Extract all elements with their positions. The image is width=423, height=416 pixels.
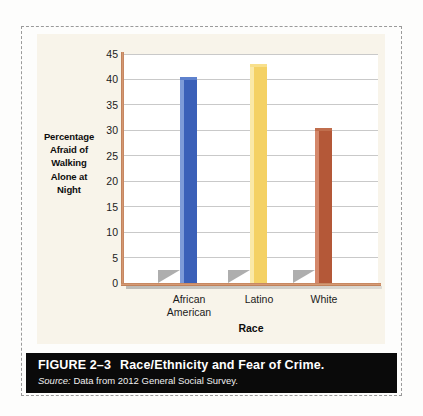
bar-highlight-white xyxy=(315,128,319,283)
figure-page: 45 40 35 30 25 20 15 10 5 0 Percentage A… xyxy=(0,0,423,416)
bar-shadow-white xyxy=(293,270,315,283)
category-label-line-1: White xyxy=(284,293,364,306)
y-tick-35: 35 xyxy=(94,100,118,111)
figure-number: FIGURE 2–3 xyxy=(38,358,111,372)
bar-shadow-african-american xyxy=(158,270,180,283)
bar-highlight-latino xyxy=(250,64,254,283)
y-tick-40: 40 xyxy=(94,74,118,85)
figure-source-text: Data from 2012 General Social Survey. xyxy=(73,375,238,386)
bar-highlight-african-american xyxy=(180,77,184,283)
y-axis-title-line-3: Walking xyxy=(38,156,100,169)
y-tick-15: 15 xyxy=(94,202,118,213)
category-label-line-2: American xyxy=(149,306,229,319)
y-tick-0: 0 xyxy=(94,278,118,289)
y-axis-title: Percentage Afraid of Walking Alone at Ni… xyxy=(38,130,100,196)
y-tick-45: 45 xyxy=(94,49,118,60)
category-label-african-american: African American xyxy=(149,293,229,318)
bar-white[interactable] xyxy=(315,128,332,283)
bar-cap-white xyxy=(315,128,332,131)
category-label-line-1: African xyxy=(149,293,229,306)
bar-african-american[interactable] xyxy=(180,77,197,283)
gridline-45 xyxy=(124,54,378,55)
y-axis-line xyxy=(121,52,124,285)
y-tick-5: 5 xyxy=(94,253,118,264)
x-axis-shadow xyxy=(126,286,382,289)
figure-source-label: Source: xyxy=(38,375,71,386)
figure-title-text: Race/Ethnicity and Fear of Crime. xyxy=(120,358,324,372)
figure-caption-bar: FIGURE 2–3Race/Ethnicity and Fear of Cri… xyxy=(26,353,397,393)
y-axis-title-line-5: Night xyxy=(38,183,100,196)
bar-cap-latino xyxy=(250,64,267,67)
category-label-white: White xyxy=(284,293,364,306)
y-axis-title-line-4: Alone at xyxy=(38,170,100,183)
figure-source-line: Source: Data from 2012 General Social Su… xyxy=(38,375,238,386)
bar-cap-african-american xyxy=(180,77,197,80)
x-axis-title: Race xyxy=(124,322,378,334)
y-tick-10: 10 xyxy=(94,227,118,238)
figure-caption-title: FIGURE 2–3Race/Ethnicity and Fear of Cri… xyxy=(38,358,324,372)
y-axis-title-line-1: Percentage xyxy=(38,130,100,143)
bar-shadow-latino xyxy=(228,270,250,283)
y-axis-title-line-2: Afraid of xyxy=(38,143,100,156)
bar-latino[interactable] xyxy=(250,64,267,283)
